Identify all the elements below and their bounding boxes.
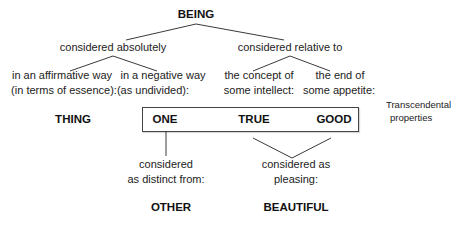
transcendental-label-line2: properties [386,111,451,124]
result-one: ONE [153,114,178,126]
connector-true-good-pleasing [253,138,331,158]
branch-considered-relative: considered relative to [238,42,343,53]
intellect-line1: the concept of [224,70,293,81]
connector-being-absolute [126,24,196,40]
result-other: OTHER [151,202,191,214]
intellect-line2: some intellect: [224,85,294,96]
affirmative-way-line1: in an affirmative way [12,70,112,81]
negative-way-line1: in a negative way [121,70,206,81]
appetite-line1: the end of [316,70,365,81]
distinct-line1: considered [139,159,193,170]
branch-considered-absolutely: considered absolutely [60,42,166,53]
result-thing: THING [55,114,91,126]
transcendental-label-line1: Transcendental [386,98,451,111]
appetite-line2: some appetite: [303,85,375,96]
affirmative-way-line2: (in terms of essence): [11,85,117,96]
result-good: GOOD [316,114,351,126]
root-being: BEING [178,9,214,21]
connector-being-relative [196,24,284,40]
pleasing-line1: considered as [262,159,331,170]
negative-way-line2: (as undivided): [117,85,189,96]
transcendental-properties-note: Transcendental properties [386,98,451,124]
transcendentals-diagram: BEING considered absolutely considered r… [0,0,471,225]
distinct-line2: as distinct from: [127,174,204,185]
result-true: TRUE [238,114,269,126]
pleasing-line2: pleasing: [274,174,318,185]
result-beautiful: BEAUTIFUL [263,202,328,214]
